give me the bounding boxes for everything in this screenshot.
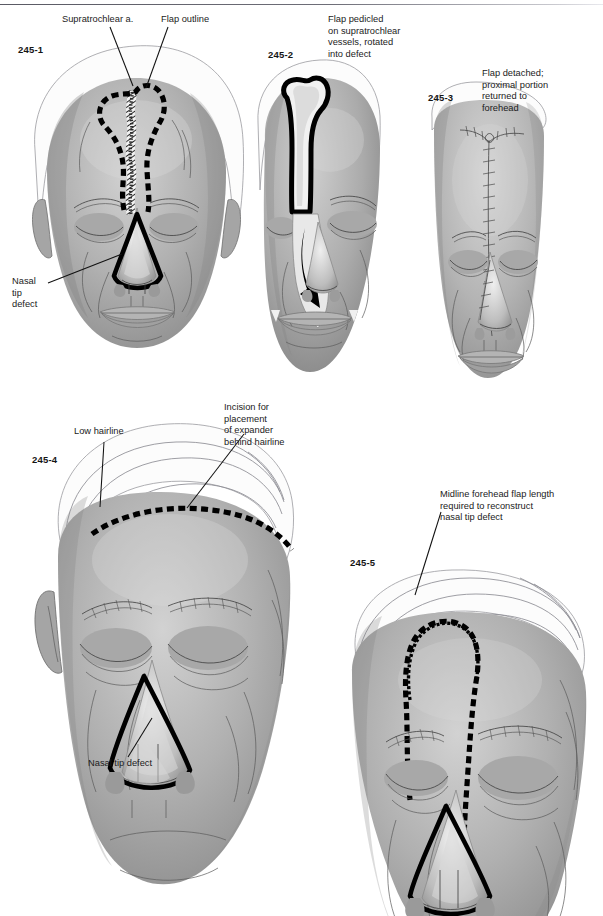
figure-number-245-2: 245-2 [268,49,293,60]
header-rule [0,4,603,5]
leader-flap-outline [146,27,168,88]
leader-low-hairline [100,442,104,507]
leader-nasal-tip-defect-4 [128,718,152,757]
panel-245-5-art [352,570,586,916]
leader-nasal-tip-defect-1 [48,254,122,283]
leader-lines [48,27,441,757]
leader-flap-length [415,512,441,595]
leader-supratrochlear [110,27,133,86]
figure-number-245-3: 245-3 [428,92,453,103]
label-low-hairline: Low hairline [74,426,124,438]
label-expander-incision: Incision for placement of expander behin… [224,402,284,448]
panel-245-4-art [35,424,294,885]
figure-number-245-4: 245-4 [32,454,57,465]
panel-245-3-art [432,82,546,378]
label-nasal-tip-defect-245-4: Nasal tip defect [88,758,152,770]
illustration-layer [0,0,603,916]
figure-number-245-5: 245-5 [350,557,375,568]
label-flap-length-required: Midline forehead flap length required to… [440,489,554,524]
label-flap-detached: Flap detached; proximal portion returned… [482,68,548,114]
label-flap-pedicled: Flap pedicled on supratrochlear vessels,… [328,14,400,60]
figure-page: 245-1 Supratrochlear a. Flap outline Nas… [0,0,603,916]
label-nasal-tip-defect-245-1: Nasal tip defect [12,276,37,311]
panel-245-1-art [32,46,243,348]
figure-number-245-1: 245-1 [18,44,43,55]
label-flap-outline: Flap outline [161,14,209,26]
label-supratrochlear-artery: Supratrochlear a. [62,14,133,26]
panel-245-2-art [258,60,380,372]
